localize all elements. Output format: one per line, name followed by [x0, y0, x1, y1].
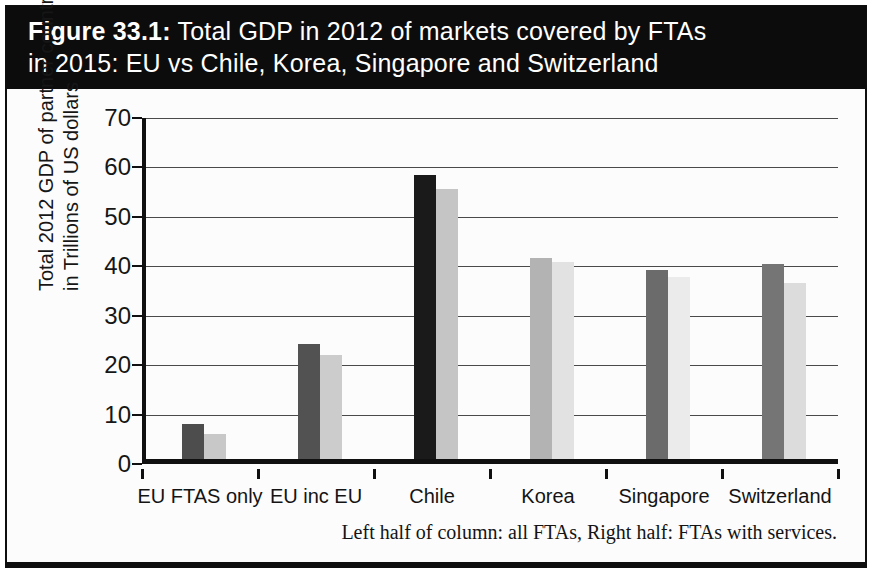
y-tick-label-10: 10 [79, 403, 131, 427]
figure-title: Figure 33.1: Total GDP in 2012 of market… [28, 17, 706, 77]
category-label-korea: Korea [483, 485, 613, 508]
bar-eu-ftas-only-all-ftas [182, 424, 204, 459]
gridline-30 [146, 316, 838, 317]
y-tick-label-60: 60 [79, 155, 131, 179]
bar-group-singapore [646, 118, 690, 459]
y-tick-mark-30 [132, 315, 142, 317]
gridline-70 [146, 118, 838, 119]
bar-group-korea [530, 118, 574, 459]
x-tick-mark-0 [141, 469, 144, 479]
bar-group-switzerland [762, 118, 806, 459]
bar-switzerland-ftas-with-services [784, 283, 806, 459]
bar-chile-ftas-with-services [436, 189, 458, 459]
bar-group-eu-inc-eu [298, 118, 342, 459]
x-tick-mark-5 [721, 469, 724, 479]
bar-eu-inc-eu-ftas-with-services [320, 355, 342, 459]
y-tick-mark-20 [132, 364, 142, 366]
bar-group-chile [414, 118, 458, 459]
category-label-switzerland: Switzerland [715, 485, 845, 508]
plot-area [142, 118, 838, 464]
y-tick-label-70: 70 [79, 106, 131, 130]
y-tick-label-0: 0 [79, 452, 131, 476]
x-tick-mark-6 [837, 469, 840, 479]
y-tick-label-50: 50 [79, 205, 131, 229]
y-tick-mark-40 [132, 265, 142, 267]
gridline-60 [146, 167, 838, 168]
category-label-singapore: Singapore [599, 485, 729, 508]
gridline-40 [146, 266, 838, 267]
figure-title-line2: in 2015: EU vs Chile, Korea, Singapore a… [28, 49, 659, 77]
category-label-chile: Chile [367, 485, 497, 508]
y-tick-label-20: 20 [79, 353, 131, 377]
y-tick-mark-50 [132, 216, 142, 218]
category-label-eu-ftas-only: EU FTAS only [135, 485, 265, 508]
bar-singapore-ftas-with-services [668, 277, 690, 459]
figure-title-bar: Figure 33.1: Total GDP in 2012 of market… [6, 6, 866, 89]
bar-korea-ftas-with-services [552, 262, 574, 459]
y-tick-label-40: 40 [79, 254, 131, 278]
bar-eu-inc-eu-all-ftas [298, 344, 320, 459]
chart-region: Total 2012 GDP of partner countries in T… [7, 89, 865, 562]
gridline-20 [146, 365, 838, 366]
bar-group-eu-ftas-only [182, 118, 226, 459]
bar-singapore-all-ftas [646, 270, 668, 459]
bar-switzerland-all-ftas [762, 264, 784, 459]
y-tick-mark-70 [132, 117, 142, 119]
y-tick-mark-10 [132, 414, 142, 416]
y-tick-mark-60 [132, 166, 142, 168]
x-tick-mark-3 [489, 469, 492, 479]
y-tick-mark-0 [132, 463, 142, 465]
bar-eu-ftas-only-ftas-with-services [204, 434, 226, 459]
bar-korea-all-ftas [530, 258, 552, 459]
x-tick-mark-2 [373, 469, 376, 479]
chart-caption: Left half of column: all FTAs, Right hal… [341, 521, 837, 544]
figure-title-line1: Total GDP in 2012 of markets covered by … [171, 17, 707, 45]
y-tick-label-30: 30 [79, 304, 131, 328]
y-axis-title-line1: Total 2012 GDP of partner countries [35, 0, 57, 291]
gridline-10 [146, 415, 838, 416]
gridline-50 [146, 217, 838, 218]
x-tick-mark-4 [605, 469, 608, 479]
category-label-eu-inc-eu: EU inc EU [251, 485, 381, 508]
x-tick-mark-1 [257, 469, 260, 479]
figure-box: Figure 33.1: Total GDP in 2012 of market… [5, 5, 867, 568]
bar-chile-all-ftas [414, 175, 436, 459]
